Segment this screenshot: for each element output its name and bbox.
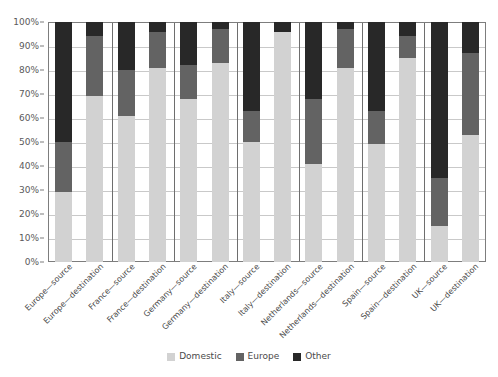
bar-segment-domestic[interactable] (243, 142, 260, 262)
legend-swatch-europe (236, 353, 244, 361)
y-tick-label: 0% (25, 258, 39, 267)
bar-segment-domestic[interactable] (149, 68, 166, 262)
y-tick-mark (40, 214, 44, 215)
bar-segment-other[interactable] (180, 22, 197, 65)
y-tick-label: 50% (19, 138, 39, 147)
legend-swatch-other (293, 353, 301, 361)
legend-item[interactable]: Other (293, 352, 331, 361)
legend-swatch-domestic (167, 353, 175, 361)
bar-segment-domestic[interactable] (86, 96, 103, 262)
bar-segment-europe[interactable] (462, 53, 479, 135)
bar-segment-other[interactable] (462, 22, 479, 53)
y-tick-mark (40, 238, 44, 239)
bar-segment-domestic[interactable] (431, 226, 448, 262)
y-tick-mark (40, 190, 44, 191)
bar[interactable] (243, 22, 260, 262)
bar-segment-europe[interactable] (212, 29, 229, 63)
y-tick-label: 10% (19, 234, 39, 243)
bar-segment-domestic[interactable] (462, 135, 479, 262)
y-tick-label: 90% (19, 42, 39, 51)
bar-segment-other[interactable] (274, 22, 291, 32)
x-tick-label: Spain—destination (359, 262, 419, 322)
bar[interactable] (118, 22, 135, 262)
stacked-bar-chart: 0%10%20%30%40%50%60%70%80%90%100% Europe… (0, 0, 498, 377)
y-tick-mark (40, 166, 44, 167)
bar-segment-other[interactable] (212, 22, 229, 29)
bar-segment-europe[interactable] (431, 178, 448, 226)
bar-segment-other[interactable] (149, 22, 166, 32)
bar-segment-europe[interactable] (337, 29, 354, 67)
y-tick-label: 30% (19, 186, 39, 195)
bar-segment-other[interactable] (86, 22, 103, 36)
bar[interactable] (86, 22, 103, 262)
bar-segment-domestic[interactable] (180, 99, 197, 262)
bar-segment-other[interactable] (55, 22, 72, 142)
bar[interactable] (180, 22, 197, 262)
x-axis: Europe—sourceEurope—destinationFrance—so… (48, 262, 486, 346)
bar-segment-domestic[interactable] (118, 116, 135, 262)
bar-segment-domestic[interactable] (305, 164, 322, 262)
bar-segment-europe[interactable] (399, 36, 416, 58)
legend-label: Other (305, 352, 331, 361)
bar[interactable] (55, 22, 72, 262)
bar-segment-domestic[interactable] (368, 144, 385, 262)
bar[interactable] (399, 22, 416, 262)
bar[interactable] (462, 22, 479, 262)
bar-segment-europe[interactable] (305, 99, 322, 164)
bar[interactable] (149, 22, 166, 262)
bar-segment-domestic[interactable] (274, 32, 291, 262)
y-tick-label: 40% (19, 162, 39, 171)
x-tick-label: Netherlands—source (259, 262, 324, 327)
bar[interactable] (368, 22, 385, 262)
y-tick-label: 80% (19, 66, 39, 75)
y-tick-label: 20% (19, 210, 39, 219)
y-tick-mark (40, 70, 44, 71)
bar-segment-other[interactable] (243, 22, 260, 111)
bar-segment-europe[interactable] (180, 65, 197, 99)
bar-segment-other[interactable] (399, 22, 416, 36)
bar-segment-europe[interactable] (118, 70, 135, 116)
y-tick-mark (40, 94, 44, 95)
x-tick-label: Europe—destination (42, 262, 106, 326)
bar-segment-other[interactable] (305, 22, 322, 99)
bar-segment-europe[interactable] (243, 111, 260, 142)
x-tick-label: France—destination (105, 262, 168, 325)
bar-segment-other[interactable] (431, 22, 448, 178)
y-tick-mark (40, 46, 44, 47)
bar-segment-domestic[interactable] (55, 192, 72, 262)
legend-item[interactable]: Europe (236, 352, 280, 361)
bar[interactable] (274, 22, 291, 262)
bar-segment-other[interactable] (118, 22, 135, 70)
bar-segment-domestic[interactable] (399, 58, 416, 262)
bar[interactable] (305, 22, 322, 262)
x-tick-label: Germany—source (142, 262, 199, 319)
y-tick-label: 100% (13, 18, 39, 27)
y-tick-mark (40, 262, 44, 263)
bar-segment-europe[interactable] (86, 36, 103, 96)
y-tick-mark (40, 22, 44, 23)
bar-segment-europe[interactable] (368, 111, 385, 145)
bar[interactable] (212, 22, 229, 262)
bar-segment-other[interactable] (368, 22, 385, 111)
bar-segment-domestic[interactable] (337, 68, 354, 262)
bar[interactable] (431, 22, 448, 262)
y-axis: 0%10%20%30%40%50%60%70%80%90%100% (0, 22, 44, 262)
legend-label: Domestic (179, 352, 221, 361)
y-tick-mark (40, 142, 44, 143)
bar-segment-europe[interactable] (55, 142, 72, 192)
y-tick-mark (40, 118, 44, 119)
bar-segment-europe[interactable] (149, 32, 166, 68)
bar-segment-other[interactable] (337, 22, 354, 29)
bars-layer (48, 22, 486, 262)
chart-legend: DomesticEuropeOther (0, 352, 498, 361)
bar-segment-domestic[interactable] (212, 63, 229, 262)
legend-label: Europe (248, 352, 280, 361)
bar[interactable] (337, 22, 354, 262)
y-tick-label: 70% (19, 90, 39, 99)
y-tick-label: 60% (19, 114, 39, 123)
legend-item[interactable]: Domestic (167, 352, 221, 361)
